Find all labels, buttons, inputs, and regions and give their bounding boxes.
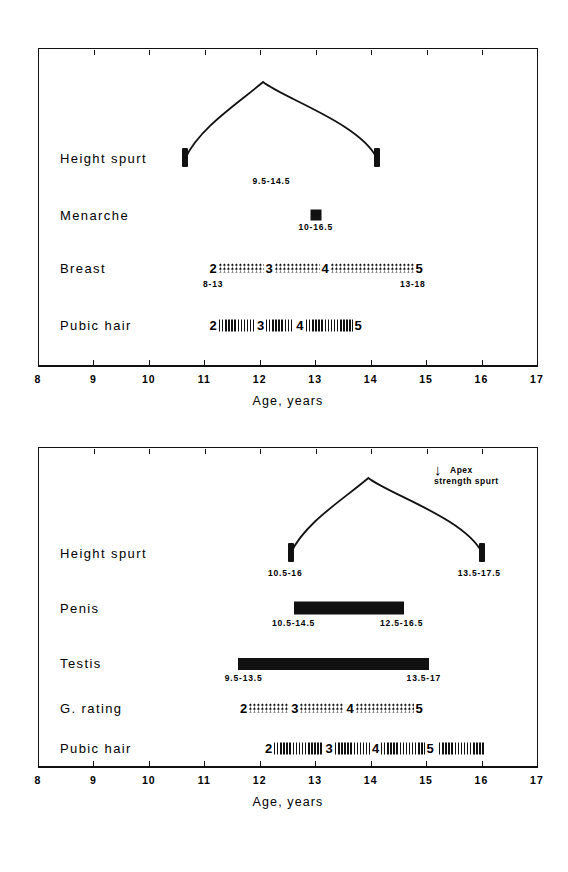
- stage-fill-segment: [381, 742, 424, 754]
- panel-top-tick-boys-10: [149, 449, 150, 454]
- stage-number: 2: [238, 702, 249, 715]
- panel-top-tick-boys-14: [371, 449, 372, 454]
- range-note-testis-end: 13.5-17: [407, 673, 441, 683]
- axis-tick-17: [537, 761, 538, 768]
- stage-strip-pubic-hair-boys: 2345: [263, 742, 486, 755]
- panel-top-tick-boys-15: [427, 449, 428, 454]
- axis-tick-14: [371, 761, 372, 768]
- axis-tick-label-10: 10: [142, 774, 156, 786]
- range-note-height-spurt-boys-end: 13.5-17.5: [458, 568, 501, 578]
- stage-number: 4: [344, 702, 355, 715]
- stage-number: 2: [263, 742, 274, 755]
- panel-top-tick-girls-14: [371, 50, 372, 55]
- panel-top-tick-girls-9: [94, 50, 95, 55]
- range-note-testis-start: 9.5-13.5: [225, 673, 263, 683]
- panel-top-tick-girls-10: [149, 50, 150, 55]
- panel-top-tick-boys-11: [205, 449, 206, 454]
- x-axis-boys: Age, years 891011121314151617: [38, 767, 538, 813]
- range-note-height-spurt-boys-start: 10.5-16: [268, 568, 302, 578]
- panel-top-tick-girls-11: [205, 50, 206, 55]
- axis-tick-9: [93, 761, 94, 768]
- axis-tick-15: [426, 761, 427, 768]
- stage-fill-segment: [249, 704, 289, 713]
- stage-number: 4: [370, 742, 381, 755]
- axis-tick-10: [149, 761, 150, 768]
- axis-tick-label-12: 12: [253, 774, 267, 786]
- height-spurt-end-cap-boys: [479, 543, 485, 562]
- panel-top-tick-boys-16: [482, 449, 483, 454]
- panel-top-tick-boys-9: [94, 449, 95, 454]
- stage-number: 3: [323, 742, 334, 755]
- axis-tick-8: [38, 761, 39, 768]
- stage-fill-segment: [300, 704, 344, 713]
- panel-top-tick-girls-15: [427, 50, 428, 55]
- range-note-penis-start: 10.5-14.5: [272, 618, 315, 628]
- axis-tick-label-9: 9: [90, 774, 97, 786]
- stage-number: 3: [289, 702, 300, 715]
- axis-tick-label-8: 8: [35, 774, 42, 786]
- stage-fill-segment: [356, 704, 414, 713]
- stage-fill-segment: [274, 742, 323, 754]
- axis-tick-12: [260, 761, 261, 768]
- axis-tick-label-16: 16: [475, 774, 489, 786]
- axis-tick-label-15: 15: [419, 774, 433, 786]
- panel-top-tick-girls-16: [482, 50, 483, 55]
- stage-number: 5: [414, 702, 425, 715]
- height-spurt-start-cap-boys: [288, 543, 294, 562]
- penis-duration-bar: [294, 602, 405, 615]
- axis-tick-16: [482, 761, 483, 768]
- testis-duration-bar: [238, 658, 429, 670]
- stage-strip-g-rating: 2345: [238, 702, 425, 715]
- panel-top-tick-boys-12: [260, 449, 261, 454]
- axis-tick-11: [204, 761, 205, 768]
- stage-fill-trailing: [439, 742, 486, 754]
- panel-top-tick-boys-13: [316, 449, 317, 454]
- range-note-penis-end: 12.5-16.5: [380, 618, 423, 628]
- panel-top-tick-girls-13: [316, 50, 317, 55]
- axis-tick-label-14: 14: [364, 774, 378, 786]
- axis-title-boys: Age, years: [253, 795, 324, 809]
- axis-tick-label-11: 11: [198, 774, 211, 786]
- axis-line-boys: [38, 767, 538, 768]
- panel-top-tick-girls-12: [260, 50, 261, 55]
- axis-tick-label-17: 17: [530, 774, 544, 786]
- axis-tick-13: [315, 761, 316, 768]
- stage-number: 5: [425, 742, 436, 755]
- axis-tick-label-13: 13: [308, 774, 322, 786]
- stage-fill-segment: [335, 742, 370, 754]
